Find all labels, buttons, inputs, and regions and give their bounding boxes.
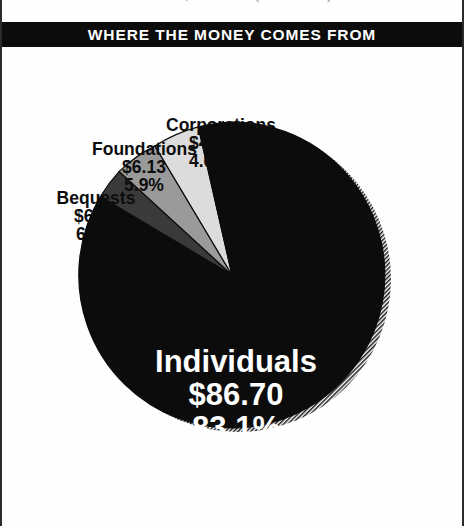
chart-page: the U.S., FY 1999 (in billions) WHERE TH… [0, 0, 464, 526]
callout-foundations: Foundations $6.13 5.9% [92, 140, 196, 195]
callout-individuals-name: Individuals [114, 345, 358, 378]
callout-individuals-percent: 83.1% [114, 411, 358, 444]
callout-bequests: Bequests $6.79 6.5% [46, 189, 146, 244]
callout-foundations-name: Foundations [92, 140, 196, 158]
cropped-headline: the U.S., FY 1999 (in billions) [2, 0, 462, 14]
callout-bequests-name: Bequests [46, 189, 146, 207]
chart-title-text: WHERE THE MONEY COMES FROM [88, 26, 376, 44]
callout-bequests-value: $6.79 [46, 207, 146, 225]
callout-individuals: Individuals $86.70 83.1% [114, 345, 358, 444]
callout-individuals-value: $86.70 [114, 378, 358, 411]
callout-bequests-percent: 6.5% [46, 225, 146, 243]
chart-title-banner: WHERE THE MONEY COMES FROM [2, 22, 462, 47]
callout-foundations-value: $6.13 [92, 158, 196, 176]
headline-spacer [2, 14, 462, 22]
callout-corporations-name: Corporations [166, 116, 276, 134]
pie-chart-area: Corporations $4.75 4.6% Foundations $6.1… [2, 47, 462, 524]
cropped-headline-text: the U.S., FY 1999 (in billions) [2, 0, 462, 3]
